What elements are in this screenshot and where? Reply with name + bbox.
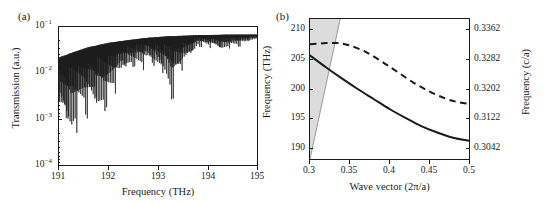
panel-a-ytick-base-3: 10 bbox=[35, 159, 45, 169]
panel-a-ytick-minor bbox=[58, 48, 60, 49]
panel-b-xticklabel-1: 0.35 bbox=[329, 165, 369, 175]
panel-a-yticklabel-3: 10−4 bbox=[8, 159, 52, 169]
panel-a-xticklabel-2: 193 bbox=[138, 171, 178, 181]
panel-b-xticklabel-3: 0.45 bbox=[409, 165, 449, 175]
panel-b-yticklabel-left-4: 210 bbox=[269, 23, 305, 33]
panel-a-ytick-minor bbox=[58, 147, 60, 148]
panel-a-ytick-minor bbox=[58, 109, 60, 110]
panel-b-ytick-left-190 bbox=[309, 148, 313, 149]
panel-b-xtick-3 bbox=[429, 160, 430, 164]
panel-b-ytick-right-2 bbox=[466, 89, 470, 90]
panel-a-ytick-minor bbox=[58, 40, 60, 41]
panel-a: (a) 191 192 193 194 195 bbox=[0, 0, 274, 205]
panel-a-ytick-base-0: 10 bbox=[35, 20, 45, 30]
panel-b-ytick-left-205 bbox=[309, 59, 313, 60]
panel-b-yticklabel-left-1: 195 bbox=[269, 112, 305, 122]
transmission-spectrum-svg bbox=[59, 27, 257, 165]
panel-a-ytick-base-1: 10 bbox=[35, 66, 45, 76]
panel-b-ytick-left-200 bbox=[309, 89, 313, 90]
panel-a-ytick-minor bbox=[58, 101, 60, 102]
band-diagram-svg bbox=[310, 19, 469, 159]
panel-b-yticklabel-right-2: 0.3202 bbox=[474, 83, 520, 93]
panel-b-yaxis-title-right: Frequency (c/a) bbox=[520, 12, 531, 152]
panel-a-ytick-minor bbox=[58, 156, 60, 157]
panel-a-ytick-1 bbox=[58, 72, 62, 73]
panel-b-xticklabel-4: 0.5 bbox=[449, 165, 489, 175]
panel-b-xtick-4 bbox=[469, 160, 470, 164]
panel-a-ytick-minor bbox=[58, 95, 60, 96]
panel-a-ytick-exp-0: −1 bbox=[45, 18, 52, 26]
panel-a-ytick-base-2: 10 bbox=[35, 113, 45, 123]
panel-a-xticklabel-4: 195 bbox=[237, 171, 277, 181]
transmission-curve bbox=[59, 35, 257, 133]
panel-a-ytick-minor bbox=[58, 59, 60, 60]
panel-a-ytick-minor bbox=[58, 162, 60, 163]
panel-b-yticklabel-right-0: 0.3042 bbox=[474, 142, 520, 152]
panel-b-yticklabel-left-0: 190 bbox=[269, 142, 305, 152]
panel-a-ytick-minor bbox=[58, 63, 60, 64]
panel-b: (b) 0.3 0.35 0.4 0.45 0.5 190 195 bbox=[274, 0, 548, 205]
panel-a-xaxis-title: Frequency (THz) bbox=[78, 186, 238, 197]
panel-b-ytick-left-210 bbox=[309, 29, 313, 30]
panel-b-ytick-right-4 bbox=[466, 29, 470, 30]
panel-a-yaxis-title: Transmission (a.u.) bbox=[10, 18, 21, 158]
panel-b-tag: (b) bbox=[276, 10, 289, 22]
panel-a-ytick-minor bbox=[58, 159, 60, 160]
panel-a-ytick-minor bbox=[58, 69, 60, 70]
panel-a-ytick-minor bbox=[58, 141, 60, 142]
panel-a-ytick-minor bbox=[58, 152, 60, 153]
panel-a-xticklabel-3: 194 bbox=[188, 171, 228, 181]
panel-a-xtick-1 bbox=[108, 166, 109, 170]
panel-a-ytick-3 bbox=[58, 165, 62, 166]
panel-a-ytick-minor bbox=[58, 105, 60, 106]
panel-a-ytick-minor bbox=[58, 133, 60, 134]
panel-a-ytick-minor bbox=[58, 116, 60, 117]
panel-b-yticklabel-left-2: 200 bbox=[269, 83, 305, 93]
panel-b-xtick-0 bbox=[309, 160, 310, 164]
panel-a-ytick-exp-1: −2 bbox=[45, 64, 52, 72]
panel-a-ytick-2 bbox=[58, 119, 62, 120]
panel-b-xtick-1 bbox=[349, 160, 350, 164]
panel-b-xtick-2 bbox=[389, 160, 390, 164]
panel-a-xtick-0 bbox=[58, 166, 59, 170]
panel-a-xticklabel-0: 191 bbox=[38, 171, 78, 181]
panel-a-ytick-0 bbox=[58, 26, 62, 27]
panel-b-xticklabel-2: 0.4 bbox=[369, 165, 409, 175]
panel-b-plot-area bbox=[310, 19, 469, 159]
panel-a-ytick-minor bbox=[58, 54, 60, 55]
panel-a-ytick-minor bbox=[58, 66, 60, 67]
panel-a-plot-area bbox=[59, 27, 257, 165]
panel-a-ytick-minor bbox=[58, 86, 60, 87]
figure-root: (a) 191 192 193 194 195 bbox=[0, 0, 548, 205]
panel-b-yticklabel-right-3: 0.3282 bbox=[474, 53, 520, 63]
panel-a-xtick-4 bbox=[257, 166, 258, 170]
panel-b-yticklabel-right-4: 0.3362 bbox=[474, 23, 520, 33]
panel-a-ytick-exp-2: −3 bbox=[45, 111, 52, 119]
panel-b-yaxis-title-left: Frequency (THz) bbox=[261, 12, 272, 152]
panel-a-xtick-3 bbox=[208, 166, 209, 170]
panel-b-yticklabel-right-1: 0.3122 bbox=[474, 112, 520, 122]
panel-b-ytick-left-195 bbox=[309, 118, 313, 119]
panel-a-ytick-exp-3: −4 bbox=[45, 157, 52, 165]
panel-a-xticklabel-1: 192 bbox=[88, 171, 128, 181]
panel-a-xtick-2 bbox=[158, 166, 159, 170]
panel-b-yticklabel-left-3: 205 bbox=[269, 53, 305, 63]
panel-b-ytick-right-3 bbox=[466, 59, 470, 60]
panel-b-xticklabel-0: 0.3 bbox=[289, 165, 329, 175]
panel-b-ytick-right-0 bbox=[466, 148, 470, 149]
panel-b-xaxis-title: Wave vector (2π/a) bbox=[309, 181, 470, 192]
panel-a-ytick-minor bbox=[58, 113, 60, 114]
panel-b-ytick-right-1 bbox=[466, 118, 470, 119]
